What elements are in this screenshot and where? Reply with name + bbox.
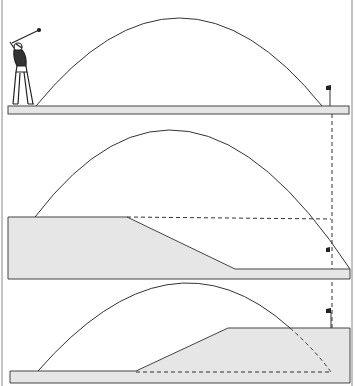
level-trajectory xyxy=(36,18,322,106)
golfer-icon xyxy=(10,29,41,105)
level-ground xyxy=(8,106,349,114)
panel-uphill xyxy=(10,283,350,383)
tee-level-reference xyxy=(127,217,331,219)
flag-icon xyxy=(326,308,331,328)
uphill-terrain xyxy=(10,328,350,383)
panel-downhill xyxy=(8,130,350,279)
panel-level xyxy=(8,18,349,114)
golf-trajectory-diagram xyxy=(0,0,355,386)
downhill-terrain xyxy=(8,217,350,279)
flag-icon xyxy=(326,247,330,252)
flag-icon xyxy=(326,85,331,106)
